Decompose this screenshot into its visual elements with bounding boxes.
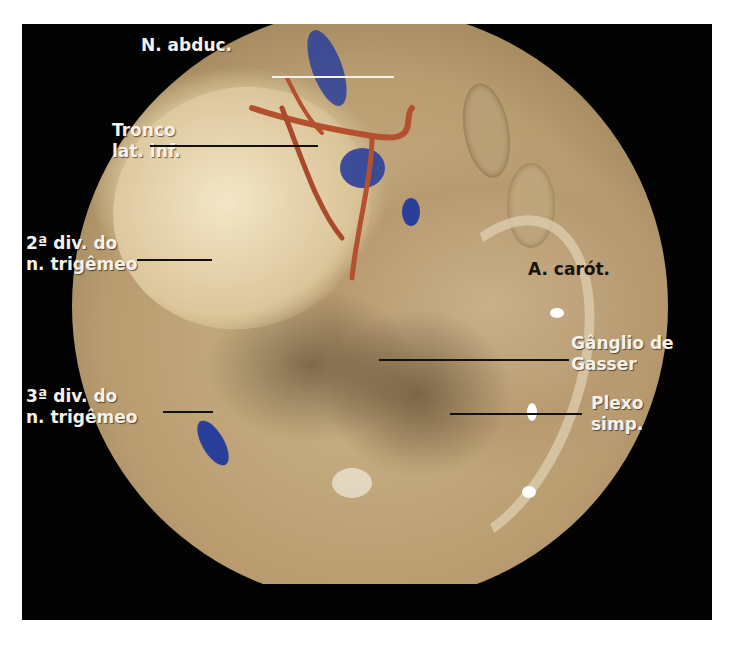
highlight-1	[550, 308, 564, 318]
highlight-2	[527, 403, 537, 421]
endoscope-view	[72, 24, 668, 604]
leader-plexo-simp	[450, 413, 582, 415]
leader-n-abduc	[272, 76, 394, 78]
scope-bottom-cut	[22, 584, 712, 620]
leader-2a-div	[137, 259, 212, 261]
image-frame	[22, 24, 712, 620]
leader-3a-div	[163, 411, 213, 413]
leader-ganglio-gasser	[379, 359, 569, 361]
label-plexo-simp: Plexo simp.	[591, 393, 643, 435]
highlight-3	[522, 486, 536, 498]
label-ganglio-gasser: Gânglio de Gasser	[571, 333, 674, 375]
label-a-carot: A. carót.	[528, 259, 610, 280]
highlight-4	[332, 468, 372, 498]
leader-tronco-lat-inf	[150, 145, 318, 147]
label-tronco-lat-inf: Tronco lat. inf.	[112, 120, 181, 162]
artery-branches	[72, 24, 668, 604]
label-3a-div: 3ª div. do n. trigêmeo	[26, 386, 137, 428]
label-n-abduc: N. abduc.	[141, 35, 232, 56]
label-2a-div: 2ª div. do n. trigêmeo	[26, 233, 137, 275]
